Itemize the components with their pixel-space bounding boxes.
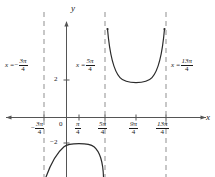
x-tick-pi-4-fraction: π 4 xyxy=(75,121,81,136)
x-tick-label-pi-4: π 4 xyxy=(75,121,81,136)
asymptote-13pi-4-denominator: 4 xyxy=(181,65,194,73)
x-tick-13pi-4-denominator: 4 xyxy=(156,128,169,136)
x-tick--3pi-4-numerator: 3π xyxy=(35,121,44,128)
x-tick-label--3pi-4: − 3π 4 xyxy=(31,121,44,136)
x-tick-9pi-4-fraction: 9π 4 xyxy=(129,121,138,136)
function-graph-figure: y x 0 2 −2 − 3π 4 π 4 5π 4 9π 4 13π xyxy=(0,0,215,177)
x-tick-9pi-4-numerator: 9π xyxy=(129,121,138,128)
x-tick-pi-4-denominator: 4 xyxy=(75,128,81,136)
curve-lower-branch xyxy=(46,144,104,177)
y-axis-label: y xyxy=(71,4,75,13)
asymptote-label-13pi-4: x = 13π 4 xyxy=(171,58,193,73)
x-tick-pi-4-numerator: π xyxy=(75,121,81,128)
asymptote--3pi-4-prefix: x = xyxy=(5,62,15,69)
x-tick-label-13pi-4: 13π 4 xyxy=(156,121,169,136)
asymptote--3pi-4-numerator: 3π xyxy=(19,58,28,65)
asymptote-lines xyxy=(44,12,166,177)
y-axis-arrowhead xyxy=(64,21,68,27)
origin-label: 0 xyxy=(59,121,63,128)
x-tick-13pi-4-fraction: 13π 4 xyxy=(156,121,169,136)
x-tick--3pi-4-fraction: 3π 4 xyxy=(35,121,44,136)
asymptote--3pi-4-denominator: 4 xyxy=(19,65,28,73)
x-tick-9pi-4-denominator: 4 xyxy=(129,128,138,136)
x-axis-label: x xyxy=(206,113,210,122)
x-tick-label-9pi-4: 9π 4 xyxy=(129,121,138,136)
x-tick--3pi-4-denominator: 4 xyxy=(35,128,44,136)
y-tick-label-minus-2: −2 xyxy=(50,139,57,146)
x-tick-label-5pi-4: 5π 4 xyxy=(98,121,107,136)
asymptote-label-5pi-4: x = 5π 4 xyxy=(76,58,95,73)
asymptote-5pi-4-prefix: x = xyxy=(76,62,86,69)
x-tick-5pi-4-fraction: 5π 4 xyxy=(98,121,107,136)
x-tick-5pi-4-numerator: 5π xyxy=(98,121,107,128)
asymptote-5pi-4-denominator: 4 xyxy=(86,65,95,73)
asymptote-13pi-4-prefix: x = xyxy=(171,62,181,69)
x-axis-arrow-left xyxy=(6,115,12,119)
asymptote-13pi-4-fraction: 13π 4 xyxy=(181,58,194,73)
x-tick-5pi-4-denominator: 4 xyxy=(98,128,107,136)
curve-upper-branch xyxy=(108,29,165,83)
asymptote-13pi-4-numerator: 13π xyxy=(181,58,194,65)
curve-upper-right-endpoint xyxy=(163,28,165,30)
asymptote-5pi-4-fraction: 5π 4 xyxy=(86,58,95,73)
y-tick-label-2: 2 xyxy=(54,76,58,83)
asymptote-label--3pi-4: x =− 3π 4 xyxy=(5,58,28,73)
asymptote-5pi-4-numerator: 5π xyxy=(86,58,95,65)
curve-upper-left-endpoint xyxy=(106,28,108,30)
asymptote--3pi-4-fraction: 3π 4 xyxy=(19,58,28,73)
plot-canvas xyxy=(0,0,215,177)
x-tick-13pi-4-numerator: 13π xyxy=(156,121,169,128)
